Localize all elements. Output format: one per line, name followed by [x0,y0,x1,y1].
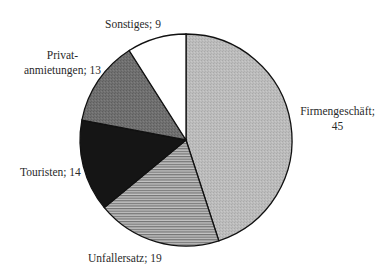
label-unfallersatz: Unfallersatz; 19 [88,251,162,266]
label-unfallersatz-text: Unfallersatz; 19 [88,252,162,264]
label-touristen-text: Touristen; 14 [20,166,81,178]
label-touristen: Touristen; 14 [20,165,81,180]
label-privatanmietungen: Privat- anmietungen; 13 [15,48,110,78]
label-sonstiges-text: Sonstiges; 9 [105,18,161,30]
label-sonstiges: Sonstiges; 9 [105,17,161,32]
pie-chart-svg [0,0,387,273]
pie-chart: Sonstiges; 9 Privat- anmietungen; 13 Tou… [0,0,387,273]
label-firmengeschaeft-line2: 45 [290,119,385,134]
label-firmengeschaeft-line1: Firmengeschäft; [290,104,385,119]
label-privat-line2: anmietungen; 13 [15,63,110,78]
label-privat-line1: Privat- [15,48,110,63]
label-firmengeschaeft: Firmengeschäft; 45 [290,104,385,134]
